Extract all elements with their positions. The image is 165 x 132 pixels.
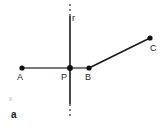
geometry-figure-panel: A P B C r a: [0, 0, 165, 132]
point-c-label: C: [150, 44, 157, 53]
point-b-label: B: [85, 73, 91, 82]
segment-bc: [89, 38, 150, 68]
point-c-dot: [147, 35, 152, 40]
line-r-label: r: [72, 14, 75, 23]
geometry-diagram: [0, 0, 165, 132]
point-b-dot: [86, 65, 91, 70]
point-p-dot: [67, 65, 73, 71]
point-a-label: A: [17, 73, 23, 82]
point-p-label: P: [61, 73, 67, 82]
point-a-dot: [19, 65, 24, 70]
stray-artifact-mark: [9, 97, 12, 101]
panel-letter-label: a: [11, 110, 17, 120]
